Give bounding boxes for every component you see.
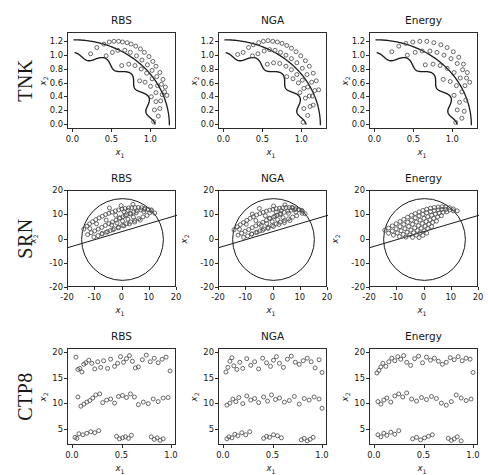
data-point (272, 224, 276, 228)
data-point (284, 64, 288, 68)
data-point (154, 100, 158, 104)
data-point (226, 365, 230, 369)
x-axis-label: x1 (267, 305, 276, 317)
y-tick-label: 0.8 (25, 64, 63, 74)
data-point (294, 50, 298, 54)
data-point (95, 222, 99, 226)
data-point (241, 366, 245, 370)
data-point (273, 398, 277, 402)
data-point (311, 435, 315, 439)
data-point (434, 219, 438, 223)
x-axis-label: x1 (418, 305, 427, 317)
x-tick-label: -10 (389, 292, 403, 302)
x-tickmark (369, 287, 370, 290)
data-point (159, 82, 163, 86)
data-point (300, 78, 304, 82)
x-tickmark (94, 287, 95, 290)
data-point (401, 395, 405, 399)
y-tick-label: 0.2 (327, 105, 365, 115)
plot-canvas (219, 349, 328, 446)
data-point (421, 233, 425, 237)
data-point (146, 402, 150, 406)
data-point (409, 218, 413, 222)
data-point (379, 402, 383, 406)
panel-title: RBS (67, 330, 176, 342)
y-tick-label: -20 (327, 282, 365, 292)
data-point (289, 46, 293, 50)
data-point (262, 49, 266, 53)
panel-ctp8-rbs: RBS51015200.00.51.0x1x2 (17, 328, 186, 473)
y-tickmark (64, 214, 67, 215)
x-tick-label: 20 (473, 292, 484, 302)
x-tickmark (478, 287, 479, 290)
y-tickmark (64, 69, 67, 70)
data-point (265, 361, 269, 365)
data-point (420, 396, 424, 400)
y-tickmark (215, 214, 218, 215)
data-point (101, 401, 105, 405)
data-points (390, 39, 472, 124)
y-tick-label: 0.4 (25, 91, 63, 101)
y-axis-label: x2 (340, 76, 352, 85)
data-point (156, 400, 160, 404)
y-tick-label: 20 (176, 347, 214, 357)
data-point (121, 360, 125, 364)
data-point (432, 356, 436, 360)
x-tickmark (300, 287, 301, 290)
data-point (430, 433, 434, 437)
data-point (306, 113, 310, 117)
data-point (249, 398, 253, 402)
data-point (277, 361, 281, 365)
data-point (435, 50, 439, 54)
data-point (449, 400, 453, 404)
y-tickmark (215, 239, 218, 240)
data-point (397, 235, 401, 239)
data-points (375, 354, 475, 443)
data-point (236, 52, 240, 56)
data-point (138, 47, 142, 51)
data-point (160, 357, 164, 361)
data-point (301, 359, 305, 363)
panel-title: NGA (218, 14, 327, 26)
y-tickmark (215, 124, 218, 125)
panel-title: Energy (369, 14, 478, 26)
data-point (411, 437, 415, 441)
x-tick-label: 0.0 (65, 450, 78, 460)
data-point (158, 107, 162, 111)
y-axis-label: x2 (340, 392, 352, 401)
plot-canvas (68, 33, 177, 130)
data-point (300, 66, 304, 70)
data-point (439, 214, 443, 218)
data-points (383, 205, 459, 240)
data-point (293, 360, 297, 364)
data-point (240, 431, 244, 435)
y-tickmark (64, 124, 67, 125)
data-point (284, 53, 288, 57)
data-point (398, 225, 402, 229)
data-point (261, 39, 265, 43)
x-tick-label: 0.5 (115, 450, 128, 460)
data-point (234, 400, 238, 404)
data-point (80, 370, 84, 374)
x-tickmark (223, 129, 224, 132)
x-tickmark (396, 287, 397, 290)
panel-title: Energy (369, 172, 478, 184)
data-point (232, 364, 236, 368)
data-point (451, 50, 455, 54)
data-point (417, 354, 421, 358)
data-point (280, 41, 284, 45)
data-point (245, 357, 249, 361)
y-tickmark (366, 110, 369, 111)
data-point (150, 68, 154, 72)
data-point (295, 73, 299, 77)
data-point (423, 436, 427, 440)
plot-canvas (68, 191, 177, 288)
data-point (241, 50, 245, 54)
y-tick-label: 5 (176, 424, 214, 434)
data-point (454, 393, 458, 397)
x-tick-label: 10 (445, 292, 456, 302)
data-point (272, 433, 276, 437)
data-point (302, 107, 306, 111)
y-tick-label: 1.0 (176, 50, 214, 60)
